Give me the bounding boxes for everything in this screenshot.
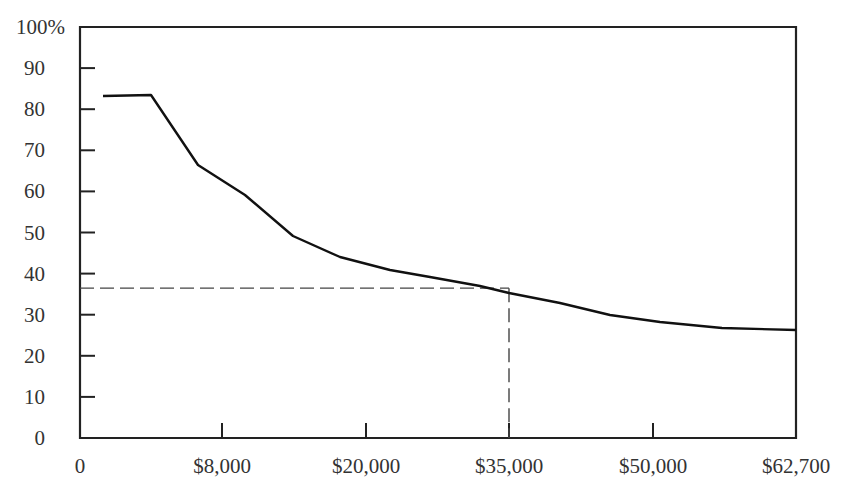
x-tick-label: $50,000 [619, 454, 687, 478]
y-tick-label: 40 [24, 262, 45, 286]
y-tick-label: 90 [24, 56, 45, 80]
y-tick-label: 10 [24, 385, 45, 409]
data-line [103, 95, 796, 330]
y-tick-label: 50 [24, 221, 45, 245]
y-tick-label: 70 [24, 138, 45, 162]
y-tick-label: 60 [24, 179, 45, 203]
x-tick-label: $62,700 [762, 454, 830, 478]
reference-dashed-lines [80, 288, 509, 438]
y-tick-label: 20 [24, 344, 45, 368]
y-tick-label: 0 [35, 426, 46, 450]
plot-frame [80, 27, 796, 438]
data-series [103, 95, 796, 330]
y-axis: 0102030405060708090100% [16, 15, 95, 450]
y-tick-label: 80 [24, 97, 45, 121]
x-axis: 0$8,000$20,000$35,000$50,000$62,700 [75, 423, 830, 478]
y-tick-label: 100% [16, 15, 65, 39]
x-tick-label: 0 [75, 454, 86, 478]
y-tick-label: 30 [24, 303, 45, 327]
x-tick-label: $8,000 [193, 454, 251, 478]
line-chart: 0102030405060708090100% 0$8,000$20,000$3… [0, 0, 843, 494]
plot-border [80, 27, 796, 438]
x-tick-label: $35,000 [475, 454, 543, 478]
x-tick-label: $20,000 [332, 454, 400, 478]
